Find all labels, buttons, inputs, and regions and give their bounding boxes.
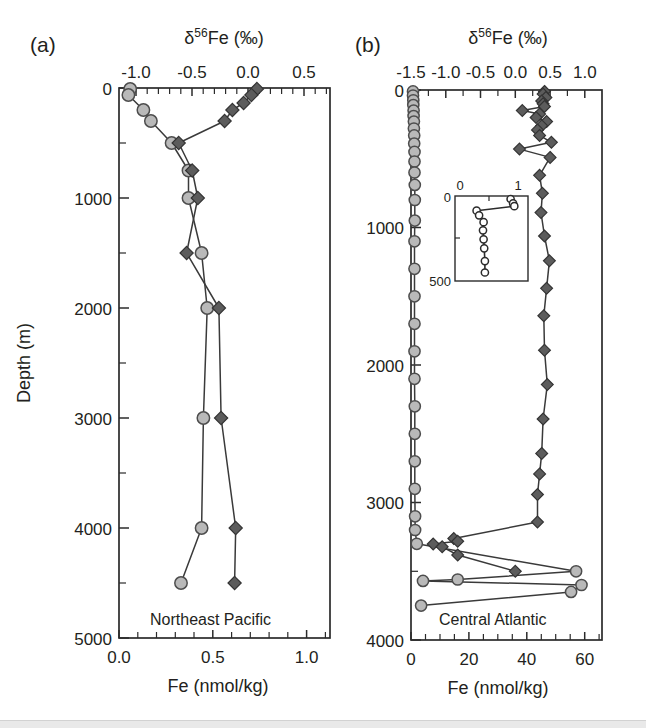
- panel-b-depth-tick-3000: 3000: [366, 494, 404, 513]
- panel-a-top-tick-2: 0.0: [236, 63, 260, 82]
- panel-a-depth-tick-1000: 1000: [74, 190, 112, 209]
- panel-a-mass-number: 56: [194, 26, 208, 40]
- panel-a-unit: (‰): [234, 28, 264, 48]
- panel-b-top-tick-3: 0.0: [503, 63, 527, 82]
- panel-b-top-tick-4: 0.5: [538, 63, 562, 82]
- panel-a-delta-series: [172, 82, 263, 589]
- panel-a-top-tick-1: -0.5: [177, 63, 206, 82]
- panel-a-fe-tick-1: 0.5: [201, 648, 225, 667]
- panel-a-top-tick-3: 0.5: [292, 63, 316, 82]
- panel-b-fe-tick-20: 20: [459, 650, 478, 669]
- panel-a-plot-frame: [119, 88, 330, 638]
- panel-a-top-tick-0: -1.0: [121, 63, 150, 82]
- panel-b-letter: (b): [355, 33, 381, 56]
- panel-a-fe-axis-title: Fe (nmol/kg): [167, 676, 268, 696]
- panel-b-element: Fe: [492, 28, 513, 48]
- svg-text:δ56Fe (‰): δ56Fe (‰): [468, 26, 547, 48]
- panel-a-site-label: Northeast Pacific: [150, 611, 271, 628]
- panel-b-depth-tick-4000: 4000: [366, 632, 404, 651]
- panel-b-top-axis-title: δ56Fe (‰): [468, 26, 547, 48]
- panel-b-top-tick-0: -1.5: [396, 63, 425, 82]
- panel-b-fe-markers: [407, 86, 587, 611]
- panel-b-fe-axis-title: Fe (nmol/kg): [447, 678, 548, 698]
- panel-b-unit: (‰): [518, 28, 548, 48]
- panel-a-fe-markers: [122, 83, 213, 589]
- panel-a-element: Fe: [208, 28, 229, 48]
- panel-a-depth-tick-2000: 2000: [74, 300, 112, 319]
- page-bottom-rule: [0, 720, 646, 728]
- figure-container: (a) δ56Fe (‰) -1.0 -0.5 0.0 0.5: [0, 0, 646, 728]
- panel-a-left-ticks: [119, 88, 129, 638]
- panel-b-bottom-ticks: [411, 632, 599, 640]
- panel-b-top-tick-1: -1.0: [431, 63, 460, 82]
- panel-b-depth-tick-0: 0: [395, 82, 404, 101]
- panel-b-delta-symbol: δ: [468, 28, 478, 48]
- panel-b-depth-tick-1000: 1000: [366, 219, 404, 238]
- panel-a-top-axis-title: δ56Fe (‰): [184, 26, 263, 48]
- panel-a-fe-tick-0: 0.0: [107, 648, 131, 667]
- panel-b-site-label: Central Atlantic: [439, 611, 547, 628]
- panel-a: (a) δ56Fe (‰) -1.0 -0.5 0.0 0.5: [14, 26, 330, 696]
- panel-a-depth-tick-0: 0: [103, 80, 112, 99]
- depth-profile-figure: (a) δ56Fe (‰) -1.0 -0.5 0.0 0.5: [0, 0, 646, 728]
- svg-text:δ56Fe (‰): δ56Fe (‰): [184, 26, 263, 48]
- inset-y-tick-500: 500: [429, 274, 451, 289]
- panel-b-fe-series: [407, 86, 587, 611]
- panel-a-letter: (a): [30, 33, 56, 56]
- inset-x-tick-1: 1: [514, 178, 521, 193]
- panel-a-depth-axis-title: Depth (m): [14, 323, 34, 403]
- panel-b-inset: 0 1 0 500: [429, 178, 528, 289]
- panel-a-top-ticks: [136, 88, 326, 96]
- panel-a-fe-tick-2: 1.0: [295, 648, 319, 667]
- panel-b-depth-tick-2000: 2000: [366, 357, 404, 376]
- panel-b-top-tick-2: -0.5: [466, 63, 495, 82]
- inset-y-tick-0: 0: [444, 190, 451, 205]
- panel-b: (b) δ56Fe (‰) -1.5 -1.0 -0.5 0.0 0.5 1.0: [355, 26, 602, 698]
- panel-b-fe-tick-40: 40: [517, 650, 536, 669]
- panel-a-depth-tick-3000: 3000: [74, 410, 112, 429]
- panel-b-top-ticks: [428, 90, 584, 98]
- panel-b-delta-series: [427, 86, 557, 578]
- panel-b-fe-tick-0: 0: [406, 650, 415, 669]
- panel-b-fe-tick-60: 60: [575, 650, 594, 669]
- panel-a-delta-symbol: δ: [184, 28, 194, 48]
- panel-a-depth-tick-5000: 5000: [74, 630, 112, 649]
- panel-a-bottom-ticks: [119, 630, 325, 638]
- panel-b-mass-number: 56: [478, 26, 492, 40]
- panel-a-depth-tick-4000: 4000: [74, 520, 112, 539]
- inset-x-tick-0: 0: [456, 178, 463, 193]
- panel-b-plot-frame: [411, 90, 602, 640]
- panel-a-fe-series: [122, 83, 213, 589]
- panel-b-top-tick-5: 1.0: [573, 63, 597, 82]
